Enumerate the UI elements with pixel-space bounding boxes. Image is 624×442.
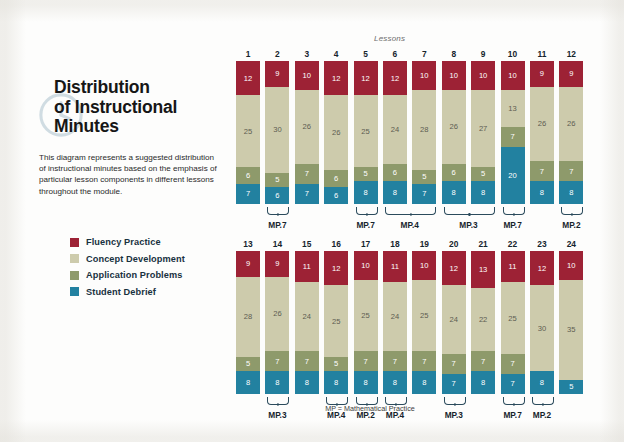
bar-segment-value: 25	[324, 285, 348, 357]
legend-swatch	[70, 238, 79, 247]
bar-segment-value: 6	[442, 164, 466, 181]
bar-segment-value: 9	[265, 61, 289, 87]
stacked-bar: 10355	[559, 251, 583, 394]
mp-label: MP.2	[533, 410, 551, 420]
mp-bracket	[532, 397, 554, 405]
bar-segment-value: 8	[530, 371, 554, 394]
lesson-number-label: 20	[449, 238, 458, 251]
bar-segment-value: 11	[501, 251, 525, 282]
lesson-column: 2410355	[559, 238, 583, 394]
bar-segment-value: 8	[236, 371, 260, 394]
bar-segment-value: 10	[442, 61, 466, 90]
stacked-bar: 92678	[530, 61, 554, 204]
lesson-number-label: 3	[304, 48, 309, 61]
infographic-page: Distribution of Instructional Minutes Th…	[0, 0, 624, 442]
chart-row-first-twelve-lessons: 1122567293056310267741226665122558612246…	[236, 48, 583, 233]
mp-bracket	[561, 207, 583, 215]
chart-row-second-twelve-lessons: 1392858149267815112478161225581710257818…	[236, 238, 583, 423]
bar-segment-value: 8	[354, 371, 378, 394]
lesson-column: 8102668	[442, 48, 466, 204]
bar-segment-value: 12	[236, 61, 260, 95]
lesson-number-label: 4	[334, 48, 339, 61]
lesson-column: 1392858	[236, 238, 260, 394]
bar-segment-value: 27	[471, 90, 495, 167]
bar-segment-value: 7	[501, 374, 525, 394]
stacked-bar: 112478	[295, 251, 319, 394]
lesson-column: 15112478	[295, 238, 319, 394]
bar-segment-value: 5	[236, 357, 260, 371]
bar-segment-value: 8	[530, 181, 554, 204]
lesson-number-label: 8	[451, 48, 456, 61]
stacked-bar: 122558	[354, 61, 378, 204]
bar-segment-value: 25	[236, 95, 260, 167]
page-title: Distribution of Instructional Minutes	[54, 78, 226, 137]
lesson-column: 16122558	[324, 238, 348, 394]
bar-segment-value: 12	[324, 61, 348, 95]
lesson-column: 1122567	[236, 48, 260, 204]
mp-bracket	[503, 397, 525, 405]
bar-segment-value: 6	[324, 170, 348, 187]
bar-segment-value: 8	[324, 371, 348, 394]
bar-segment-value: 6	[265, 187, 289, 204]
legend-item-label: Concept Development	[86, 254, 185, 264]
lesson-number-label: 17	[361, 238, 370, 251]
lesson-number-label: 22	[508, 238, 517, 251]
bar-segment-value: 8	[471, 181, 495, 204]
bar-segment-value: 10	[412, 251, 436, 280]
mp-label: MP.3	[445, 410, 463, 420]
bar-segment-value: 12	[383, 61, 407, 95]
bar-segment-value: 12	[324, 251, 348, 285]
lesson-column: 6122468	[383, 48, 407, 204]
bar-segment-value: 7	[295, 351, 319, 371]
bar-segment-value: 10	[354, 251, 378, 280]
bar-segment-value: 11	[295, 251, 319, 282]
stacked-bar: 1013720	[501, 61, 525, 204]
lesson-number-label: 6	[393, 48, 398, 61]
intro-panel: Distribution of Instructional Minutes Th…	[30, 78, 226, 197]
bar-segment-value: 9	[236, 251, 260, 277]
bar-segment-value: 25	[501, 282, 525, 354]
lesson-number-label: 15	[302, 238, 311, 251]
legend-item-label: Student Debrief	[86, 287, 156, 297]
lesson-column: 101013720	[501, 48, 525, 204]
bar-segment-value: 9	[530, 61, 554, 87]
stacked-bar: 92858	[236, 251, 260, 394]
bar-segment-value: 9	[559, 61, 583, 87]
intro-paragraph: This diagram represents a suggested dist…	[39, 152, 221, 198]
stacked-bar: 102758	[471, 61, 495, 204]
lesson-number-label: 16	[332, 238, 341, 251]
bar-segment-value: 8	[265, 371, 289, 394]
mp-label: MP.7	[356, 220, 374, 230]
bar-segment-value: 7	[295, 184, 319, 204]
stacked-bar: 112577	[501, 251, 525, 394]
legend-item: Fluency Practice	[70, 234, 185, 251]
bar-segment-value: 8	[412, 371, 436, 394]
stacked-bar: 132278	[471, 251, 495, 394]
lesson-column: 19102578	[412, 238, 436, 394]
bar-segment-value: 11	[383, 251, 407, 282]
stacked-bar: 102677	[295, 61, 319, 204]
lesson-column: 18112478	[383, 238, 407, 394]
lesson-number-label: 5	[363, 48, 368, 61]
bar-segment-value: 7	[442, 374, 466, 394]
legend-item-label: Fluency Practice	[86, 237, 161, 247]
lesson-column: 293056	[265, 48, 289, 204]
lesson-number-label: 21	[478, 238, 487, 251]
bar-segment-value: 8	[471, 371, 495, 394]
bar-segment-value: 5	[559, 380, 583, 394]
bar-segment-value: 8	[559, 181, 583, 204]
bar-segment-value: 9	[265, 251, 289, 277]
bar-segment-value: 10	[295, 61, 319, 90]
bar-segment-value: 24	[383, 95, 407, 164]
legend-swatch	[70, 254, 79, 263]
mp-bracket	[503, 207, 525, 215]
bar-segment-value: 26	[265, 277, 289, 351]
mp-bracket	[385, 207, 436, 215]
stacked-bar: 102668	[442, 61, 466, 204]
bar-segment-value: 5	[324, 357, 348, 371]
stacked-bar: 12308	[530, 251, 554, 394]
bar-segment-value: 7	[501, 127, 525, 147]
bar-segment-value: 7	[471, 351, 495, 371]
stacked-bar: 102578	[354, 251, 378, 394]
bar-columns: 1122567293056310267741226665122558612246…	[236, 48, 583, 204]
